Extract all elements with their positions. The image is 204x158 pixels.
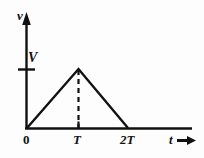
x-axis-tick-label-2T: 2T [120,133,134,146]
y-axis-label: v [17,9,23,22]
graph-canvas [0,0,204,158]
y-axis-arrowhead [22,12,31,25]
t-axis-direction-arrow-icon [177,136,196,145]
origin-label: 0 [23,133,30,146]
x-axis-label: t [169,133,173,146]
y-axis-tick-label-V: V [28,51,37,65]
x-axis-tick-label-T: T [73,133,81,146]
velocity-time-graph-figure: v V 0 T 2T t [0,0,204,158]
